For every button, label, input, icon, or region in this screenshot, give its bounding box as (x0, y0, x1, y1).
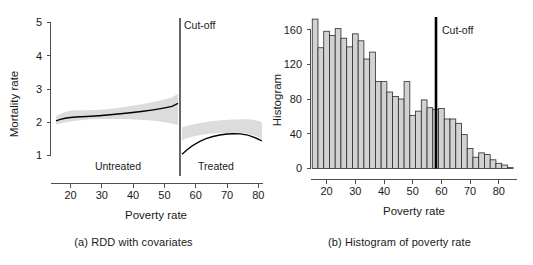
histogram-bar (421, 100, 427, 169)
hist-x-axis: 20 30 40 50 60 70 80 (311, 180, 517, 198)
histogram-bar (473, 157, 479, 168)
rdd-y-axis-title: Mortality rate (8, 71, 20, 137)
hist-xtick-70: 70 (464, 185, 476, 197)
rdd-xtick-50: 50 (158, 189, 170, 201)
histogram-bar (427, 108, 433, 169)
rdd-plot: Mortality rate 5 4 3 2 1 (0, 0, 267, 232)
histogram-bar (479, 153, 485, 169)
histogram-bar (358, 41, 364, 169)
hist-x-axis-title: Poverty rate (383, 205, 445, 217)
hist-xtick-60: 60 (435, 185, 447, 197)
histogram-bar (502, 165, 508, 168)
hist-xtick-50: 50 (407, 185, 419, 197)
histogram-bar (329, 36, 335, 169)
rdd-ytick-5: 5 (36, 16, 42, 28)
hist-y-axis: 160 120 80 40 0 (284, 24, 311, 175)
hist-ytick-0: 0 (296, 162, 302, 174)
histogram-bar (467, 149, 473, 169)
histogram-bar (335, 29, 341, 169)
histogram-bar (341, 38, 347, 168)
panel-a-caption: (a) RDD with covariates (0, 236, 267, 248)
histogram-bar (439, 109, 445, 169)
hist-ytick-120: 120 (284, 58, 302, 70)
histogram-bar (444, 119, 450, 169)
histogram-bar (347, 47, 353, 169)
rdd-xtick-60: 60 (190, 189, 202, 201)
histogram-bar (387, 92, 393, 168)
histogram-bar (398, 99, 404, 169)
rdd-treated-label: Treated (198, 160, 234, 172)
panel-histogram-of-poverty-rate: Histogram 160 120 80 40 0 Cut-off (266, 0, 533, 265)
hist-ytick-80: 80 (290, 93, 302, 105)
histogram-bar (370, 52, 376, 168)
histogram-bar (375, 82, 381, 169)
rdd-ytick-3: 3 (36, 83, 42, 95)
histogram-bar (484, 155, 490, 169)
histogram-bar (456, 123, 462, 168)
panel-rdd-with-covariates: Mortality rate 5 4 3 2 1 (0, 0, 267, 265)
rdd-xtick-70: 70 (221, 189, 233, 201)
histogram-bar (381, 82, 387, 169)
rdd-y-axis: 5 4 3 2 1 (36, 16, 51, 161)
histogram-bar (404, 82, 410, 169)
rdd-x-axis-title: Poverty rate (125, 209, 187, 221)
hist-xtick-80: 80 (493, 185, 505, 197)
histogram-bar (364, 59, 370, 168)
rdd-xtick-80: 80 (252, 189, 264, 201)
histogram-bar (312, 19, 318, 168)
hist-ytick-40: 40 (290, 128, 302, 140)
figure-container: Mortality rate 5 4 3 2 1 (0, 0, 533, 265)
rdd-fit-line-treated (182, 134, 262, 155)
hist-xtick-20: 20 (320, 185, 332, 197)
rdd-x-axis: 20 30 40 50 60 70 80 (51, 184, 265, 202)
histogram-bars (312, 19, 513, 168)
rdd-ytick-4: 4 (36, 50, 42, 62)
rdd-ytick-1: 1 (36, 149, 42, 161)
rdd-cutoff-label: Cut-off (184, 19, 215, 31)
rdd-xtick-20: 20 (64, 189, 76, 201)
histogram-bar (410, 116, 416, 169)
histogram-bar (416, 111, 422, 168)
rdd-ytick-2: 2 (36, 116, 42, 128)
histogram-bar (318, 48, 324, 169)
histogram-bar (450, 119, 456, 169)
hist-y-axis-title: Histogram (271, 74, 283, 126)
histogram-bar (490, 160, 496, 169)
histogram-plot: Histogram 160 120 80 40 0 Cut-off (266, 0, 533, 232)
rdd-xtick-30: 30 (96, 189, 108, 201)
hist-xtick-40: 40 (378, 185, 390, 197)
histogram-bar (461, 135, 467, 169)
hist-cutoff-label: Cut-off (442, 24, 473, 36)
histogram-bar (393, 96, 399, 168)
panel-b-caption: (b) Histogram of poverty rate (266, 236, 533, 248)
histogram-bar (324, 31, 330, 168)
hist-xtick-30: 30 (349, 185, 361, 197)
histogram-bar (507, 168, 513, 169)
rdd-untreated-label: Untreated (95, 160, 141, 172)
histogram-bar (352, 34, 358, 169)
rdd-xtick-40: 40 (127, 189, 139, 201)
hist-ytick-160: 160 (284, 24, 302, 36)
histogram-bar (496, 163, 502, 168)
